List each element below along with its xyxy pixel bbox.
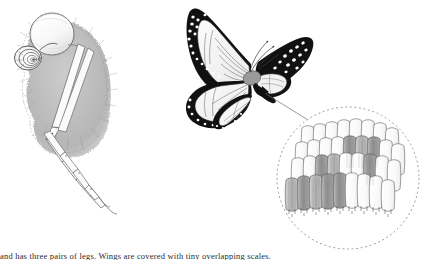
- figure-caption: and has three pairs of legs. Wings are c…: [0, 251, 433, 260]
- wing-scale-detail-circle: [277, 107, 419, 249]
- overlapping-scales: [285, 119, 405, 217]
- butterfly-head-illustration: [15, 13, 119, 214]
- figure-canvas: [0, 0, 433, 260]
- figure-root: and has three pairs of legs. Wings are c…: [0, 0, 433, 260]
